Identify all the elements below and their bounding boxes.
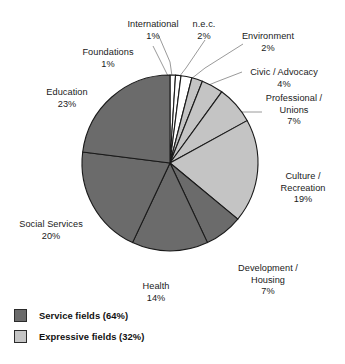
pie-label-international-name: International [127, 19, 178, 29]
pie-label-development-name: Development / Housing [238, 263, 298, 284]
pie-label-development-pct: 7% [222, 286, 314, 297]
pie-label-social-services: Social Services 20% [4, 208, 98, 254]
pie-label-culture: Culture / Recreation 19% [264, 160, 342, 217]
legend-item-service: Service fields (64%) [14, 305, 144, 326]
pie-label-education-name: Education [46, 87, 87, 97]
legend-label-expressive: Expressive fields (32%) [39, 331, 144, 342]
pie-label-nec-name: n.e.c. [193, 19, 216, 29]
pie-label-culture-name: Culture / Recreation [281, 171, 326, 192]
pie-label-health-name: Health [143, 281, 170, 291]
pie-label-environment-name: Environment [242, 31, 294, 41]
pie-label-foundations-name: Foundations [82, 47, 133, 57]
pie-label-professional-pct: 7% [250, 116, 338, 127]
pie-label-education-pct: 23% [24, 99, 110, 110]
legend-swatch-expressive-icon [14, 330, 27, 343]
pie-label-environment-pct: 2% [223, 43, 313, 54]
pie-label-culture-pct: 19% [264, 194, 342, 205]
pie-chart-figure: International 1% n.e.c. 2% Environment 2… [0, 0, 345, 364]
pie-label-health-pct: 14% [126, 293, 186, 304]
legend-swatch-service-icon [14, 309, 27, 322]
legend-label-service: Service fields (64%) [39, 310, 128, 321]
legend-item-expressive: Expressive fields (32%) [14, 326, 144, 347]
pie-label-professional-name: Professional / Unions [266, 93, 322, 114]
pie-label-professional: Professional / Unions 7% [250, 82, 338, 139]
pie-label-social-services-name: Social Services [19, 219, 83, 229]
pie-label-development: Development / Housing 7% [222, 252, 314, 309]
pie-label-education: Education 23% [24, 76, 110, 122]
pie-label-foundations-pct: 1% [62, 59, 154, 70]
pie-label-civic-name: Civic / Advocacy [250, 67, 318, 77]
pie-label-foundations: Foundations 1% [62, 36, 154, 82]
pie-label-social-services-pct: 20% [4, 231, 98, 242]
chart-legend: Service fields (64%) Expressive fields (… [14, 305, 144, 347]
